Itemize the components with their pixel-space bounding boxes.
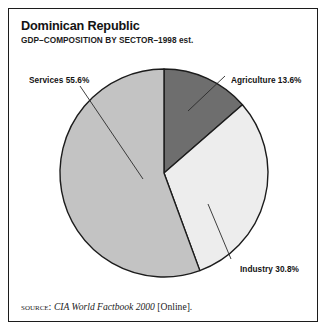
page-title: Dominican Republic [21, 18, 284, 33]
pie-label-services: Services 55.6% [29, 75, 89, 85]
leader-line-services [80, 86, 143, 179]
source-label: SOURCE: [21, 301, 52, 312]
pie-label-industry: Industry 30.8% [240, 264, 299, 274]
source-note: SOURCE: CIA World Factbook 2000 [Online]… [21, 301, 192, 313]
chart-figure-frame: Dominican Republic GDP–COMPOSITION BY SE… [8, 8, 318, 322]
pie-chart-plot-area [1, 1, 330, 333]
pie-slice-services[interactable] [60, 69, 200, 277]
chart-subtitle: GDP–COMPOSITION BY SECTOR–1998 est. [21, 35, 290, 46]
source-work-title: CIA World Factbook 2000 [54, 301, 155, 312]
pie-chart-svg [1, 1, 330, 333]
chart-heading: Dominican Republic GDP–COMPOSITION BY SE… [21, 18, 301, 46]
pie-label-agriculture: Agriculture 13.6% [231, 75, 302, 85]
leader-line-agriculture [188, 76, 225, 111]
pie-slice-industry[interactable] [164, 105, 268, 271]
source-suffix: [Online]. [157, 301, 192, 312]
leader-line-industry [208, 204, 231, 259]
